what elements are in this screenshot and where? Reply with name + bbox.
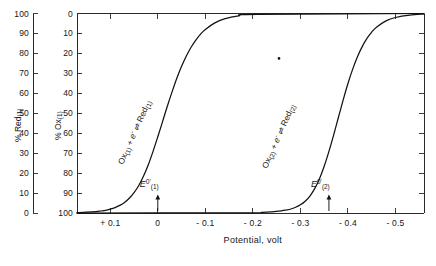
formal-potential-1-label: E0'(1) — [140, 178, 159, 190]
E-formal-2-arrow — [327, 195, 332, 212]
y-tick-label-left: 20 — [0, 168, 29, 178]
x-axis-title: Potential, volt — [224, 235, 283, 245]
curve-series-1 — [77, 14, 424, 213]
y-tick-label-left: 0 — [0, 208, 29, 218]
formal-potential-2-label: E0'(2) — [311, 178, 330, 190]
y-axis-title-inner: % Ox(1) — [53, 111, 63, 140]
y-tick-label-inner: 90 — [43, 188, 73, 198]
y-tick-label-inner: 20 — [43, 48, 73, 58]
y-tick-label-left: 100 — [0, 9, 29, 19]
x-tick-label: - 0.5 — [386, 218, 404, 228]
tick-marks — [33, 14, 424, 214]
curve-paths — [77, 14, 424, 214]
x-tick-label: - 0.1 — [196, 218, 214, 228]
y-tick-label-left: 80 — [0, 48, 29, 58]
x-tick-label: - 0.2 — [244, 218, 262, 228]
plot-frame — [33, 14, 424, 214]
y-tick-label-inner: 80 — [43, 168, 73, 178]
y-tick-label-left: 10 — [0, 188, 29, 198]
x-tick-label: - 0.4 — [339, 218, 357, 228]
x-tick-label: + 0.1 — [100, 218, 120, 228]
E-formal-1-arrow — [155, 195, 160, 212]
y-tick-label-inner: 30 — [43, 68, 73, 78]
y-tick-label-inner: 100 — [43, 208, 73, 218]
y-tick-label-inner: 40 — [43, 88, 73, 98]
y-tick-label-left: 30 — [0, 148, 29, 158]
x-tick-label: 0 — [155, 218, 160, 228]
y-tick-label-inner: 10 — [43, 28, 73, 38]
y-tick-label-inner: 0 — [43, 9, 73, 19]
stray-mark-dot — [278, 57, 281, 60]
figure-container: 0102030405060708090100100908070605040302… — [0, 0, 436, 266]
annotation-marks — [155, 57, 331, 211]
y-tick-label-left: 90 — [0, 28, 29, 38]
x-tick-label: - 0.3 — [291, 218, 309, 228]
curve-series-2 — [77, 14, 424, 213]
y-tick-label-left: 70 — [0, 68, 29, 78]
y-axis-title-left: % Red(1) — [13, 109, 23, 142]
y-tick-label-inner: 70 — [43, 148, 73, 158]
y-tick-label-left: 60 — [0, 88, 29, 98]
